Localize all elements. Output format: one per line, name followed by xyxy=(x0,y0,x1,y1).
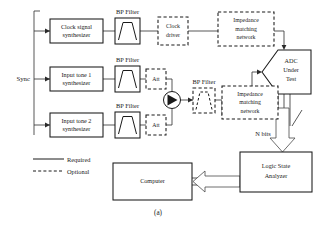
lsa-line2: Analyzer xyxy=(265,172,288,179)
wire-att2-to-combiner xyxy=(166,108,172,125)
wire-att1-to-combiner xyxy=(166,79,172,92)
imn-top-line2: matching xyxy=(235,26,257,32)
att2-label: Att xyxy=(152,122,160,128)
arrowhead-combined-bpf xyxy=(188,98,193,103)
adc-line2: Under xyxy=(283,66,298,73)
att1-label: Att xyxy=(152,76,160,82)
label-bp-filter-tone1: BP Filter xyxy=(116,56,140,63)
mixer-combiner[interactable] xyxy=(164,92,181,109)
tone1-synth-line1: Input tone 1 xyxy=(62,71,92,78)
imn-bottom-line2: matching xyxy=(239,99,261,105)
imn-bottom-line3: network xyxy=(241,108,260,114)
imn-top-line1: Impedance xyxy=(233,17,259,23)
clock-driver-line2: driver xyxy=(166,32,180,38)
legend: Required Optional xyxy=(33,156,91,175)
adc-line1: ADC xyxy=(284,57,297,64)
arrowhead-sync-clock xyxy=(45,29,50,34)
label-bp-filter-tone2: BP Filter xyxy=(116,102,140,109)
lsa-line1: Logic State xyxy=(262,162,291,169)
label-bp-filter-combined: BP Filter xyxy=(192,78,216,85)
computer-block-arrow xyxy=(193,171,240,192)
clock-synth-line2: synthesizer xyxy=(63,31,91,38)
label-sync: Sync xyxy=(16,75,30,82)
computer-label: Computer xyxy=(140,177,165,184)
tone2-synth-line1: Input tone 2 xyxy=(62,117,92,124)
block-bp-filter-tone1[interactable] xyxy=(115,66,140,92)
imn-top-line3: network xyxy=(237,34,256,40)
arrowhead-sync-tone2 xyxy=(45,123,50,128)
wire-imn-to-adc-clock xyxy=(274,31,284,46)
figure-canvas: Clock signal synthesizer Input tone 1 sy… xyxy=(0,0,316,227)
n-bits-pointer-line xyxy=(292,110,302,126)
block-bp-filter-clock[interactable] xyxy=(115,18,140,44)
legend-required-label: Required xyxy=(67,156,91,163)
tone2-synth-line2: synthesizer xyxy=(63,125,91,132)
arrowhead-adc-signal xyxy=(257,70,262,75)
label-n-bits: N bits xyxy=(255,130,271,137)
block-diagram: Clock signal synthesizer Input tone 1 sy… xyxy=(0,0,316,227)
clock-synth-line1: Clock signal xyxy=(61,23,92,30)
clock-driver-line1: Clock xyxy=(166,23,180,29)
label-bp-filter-clock: BP Filter xyxy=(116,8,140,15)
adc-line3: Test xyxy=(286,75,297,82)
arrowhead-adc-clock xyxy=(282,45,287,50)
tone1-synth-line2: synthesizer xyxy=(63,79,91,86)
imn-bottom-line1: Impedance xyxy=(237,91,263,97)
figure-caption: (a) xyxy=(154,209,163,217)
legend-optional-label: Optional xyxy=(67,168,90,175)
arrowhead-sync-tone1 xyxy=(45,77,50,82)
block-bp-filter-tone2[interactable] xyxy=(115,112,140,138)
